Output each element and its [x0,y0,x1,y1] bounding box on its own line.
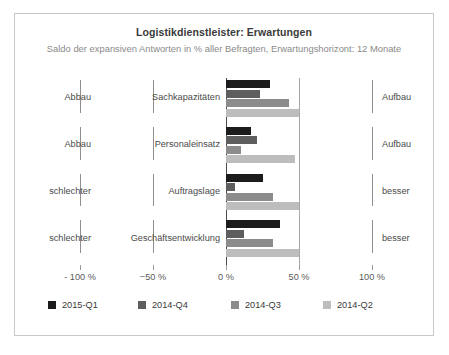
bar-2014-Q3-Sachkapazitäten [226,99,289,107]
right-axis-descriptor: besser [382,186,449,196]
legend-item-2014-Q3[interactable]: 2014-Q3 [231,298,281,312]
legend-swatch-icon [231,301,239,309]
chart-legend: 2015-Q12014-Q42014-Q32014-Q2 [15,298,435,314]
x-tick--100 [80,265,81,270]
gridline-50 [299,78,300,265]
bar-2014-Q2-Sachkapazitäten [226,109,299,117]
bar-2014-Q2-Geschäftsentwicklung [226,249,299,257]
x-axis: - 100 %−50 %0 %50 %100 % [15,265,435,291]
chart-title: Logistikdienstleister: Erwartungen [15,26,433,39]
bar-2015-Q1-Geschäftsentwicklung [226,220,280,228]
legend-label: 2014-Q2 [337,300,373,310]
legend-label: 2014-Q4 [152,300,188,310]
chart-subtitle: Saldo der expansiven Antworten in % alle… [15,42,433,55]
legend-item-2014-Q4[interactable]: 2014-Q4 [138,298,188,312]
bar-2014-Q3-Auftragslage [226,193,273,201]
x-tick-label-0: 0 % [218,272,234,282]
bar-2015-Q1-Sachkapazitäten [226,80,270,88]
left-axis-descriptor: Abbau [23,92,91,102]
category-label-Geschäftsentwicklung: Geschäftsentwicklung [75,233,220,243]
x-tick-100 [372,265,373,270]
right-axis-descriptor: Aufbau [382,92,449,102]
x-tick-label-50: 50 % [289,272,310,282]
plot-area: SachkapazitätenAbbauAufbauPersonaleinsat… [15,78,435,265]
legend-label: 2015-Q1 [62,300,98,310]
category-label-Sachkapazitäten: Sachkapazitäten [75,92,220,102]
left-axis-descriptor: schlechter [23,186,91,196]
title-block: Logistikdienstleister: Erwartungen Saldo… [15,26,433,55]
bar-2014-Q2-Personaleinsatz [226,155,295,163]
legend-item-2015-Q1[interactable]: 2015-Q1 [48,298,98,312]
right-axis-descriptor: Aufbau [382,139,449,149]
bar-2014-Q4-Auftragslage [226,183,235,191]
bar-2014-Q4-Geschäftsentwicklung [226,230,244,238]
bar-2014-Q3-Geschäftsentwicklung [226,239,273,247]
x-tick-label-100: 100 % [359,272,385,282]
bar-2014-Q4-Personaleinsatz [226,136,257,144]
x-tick--50 [153,265,154,270]
bar-2014-Q3-Personaleinsatz [226,146,241,154]
category-label-Auftragslage: Auftragslage [75,186,220,196]
bar-2014-Q4-Sachkapazitäten [226,90,260,98]
x-tick-label--50: −50 % [140,272,166,282]
chart-card: Logistikdienstleister: Erwartungen Saldo… [14,13,434,336]
legend-swatch-icon [48,301,56,309]
x-tick-label--100: - 100 % [64,272,96,282]
bar-2015-Q1-Personaleinsatz [226,127,251,135]
right-axis-descriptor: besser [382,233,449,243]
x-tick-0 [226,265,227,270]
legend-label: 2014-Q3 [245,300,281,310]
legend-item-2014-Q2[interactable]: 2014-Q2 [323,298,373,312]
left-axis-descriptor: Abbau [23,139,91,149]
left-axis-descriptor: schlechter [23,233,91,243]
bar-2015-Q1-Auftragslage [226,174,263,182]
x-tick-50 [299,265,300,270]
category-label-Personaleinsatz: Personaleinsatz [75,139,220,149]
legend-swatch-icon [138,301,146,309]
gridline-100 [372,78,373,265]
legend-swatch-icon [323,301,331,309]
bar-2014-Q2-Auftragslage [226,202,299,210]
